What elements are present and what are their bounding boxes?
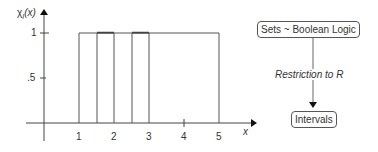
x-tick-2: 2 [111, 131, 117, 142]
x-tick-3: 3 [146, 131, 152, 142]
intervals-box: Intervals [291, 111, 337, 128]
x-tick-1: 1 [76, 131, 82, 142]
x-tick-4: 4 [181, 131, 187, 142]
restriction-label: Restriction to R [275, 69, 343, 80]
x-axis-label: x [243, 126, 248, 137]
interval-2.5-3 [132, 33, 149, 123]
y-axis-label: χI(x) [17, 7, 36, 20]
y-tick-1: 1 [31, 27, 37, 38]
interval-1.5-2 [97, 33, 114, 123]
x-tick-5: 5 [216, 131, 222, 142]
sets-boolean-logic-box: Sets ~ Boolean Logic [257, 21, 360, 38]
y-tick-half: .5 [27, 72, 35, 83]
